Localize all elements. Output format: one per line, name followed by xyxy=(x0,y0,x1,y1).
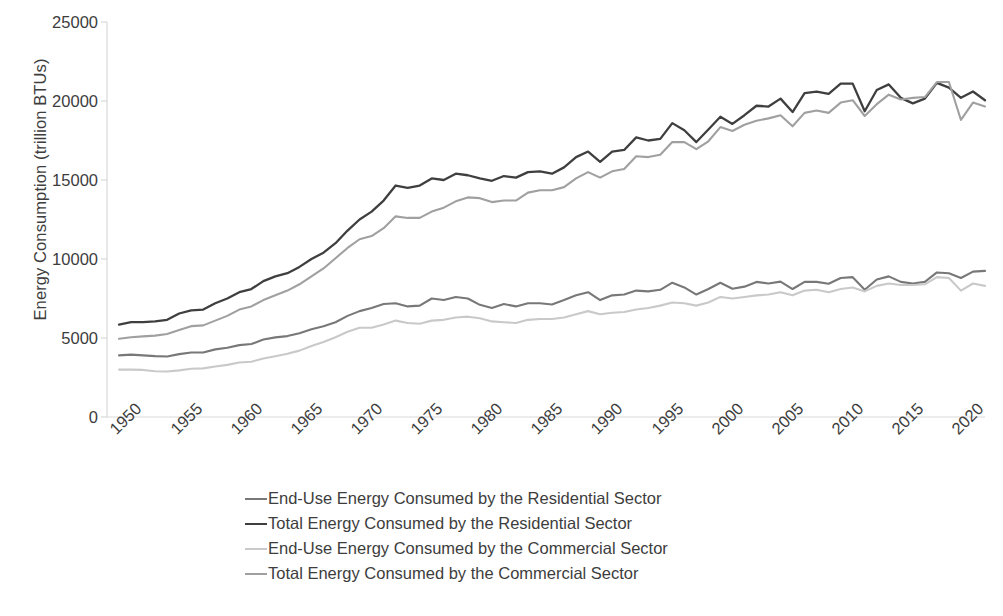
series-line-0 xyxy=(119,271,985,357)
y-tick-label-15000: 15000 xyxy=(36,171,98,190)
y-tick-label-20000: 20000 xyxy=(36,92,98,111)
chart-legend: End-Use Energy Consumed by the Residenti… xyxy=(245,486,805,586)
plot-svg xyxy=(107,22,985,417)
y-tick-label-5000: 5000 xyxy=(36,329,98,348)
legend-item-0[interactable]: End-Use Energy Consumed by the Residenti… xyxy=(245,486,805,511)
legend-item-3[interactable]: Total Energy Consumed by the Commercial … xyxy=(245,561,805,586)
axis-lines xyxy=(107,22,985,417)
legend-swatch-icon xyxy=(245,548,267,550)
legend-swatch-icon xyxy=(245,573,267,575)
legend-label: Total Energy Consumed by the Residential… xyxy=(268,515,632,532)
legend-label: End-Use Energy Consumed by the Residenti… xyxy=(268,490,661,507)
legend-label: End-Use Energy Consumed by the Commercia… xyxy=(268,540,668,557)
series-lines xyxy=(119,82,985,371)
y-tick-label-0: 0 xyxy=(36,408,98,427)
x-axis-tick-labels: 1950195519601965197019751980198519901995… xyxy=(107,417,985,487)
y-tick-label-10000: 10000 xyxy=(36,250,98,269)
legend-swatch-icon xyxy=(245,498,267,500)
y-axis-tick-labels: 0500010000150002000025000 xyxy=(36,0,98,616)
legend-swatch-icon xyxy=(245,523,267,525)
legend-item-1[interactable]: Total Energy Consumed by the Residential… xyxy=(245,511,805,536)
energy-consumption-line-chart: Energy Consumption (trillion BTUs) 05000… xyxy=(0,0,1003,616)
plot-area xyxy=(107,22,985,417)
series-line-3 xyxy=(119,82,985,339)
legend-item-2[interactable]: End-Use Energy Consumed by the Commercia… xyxy=(245,536,805,561)
series-line-2 xyxy=(119,277,985,371)
legend-label: Total Energy Consumed by the Commercial … xyxy=(268,565,639,582)
y-tick-label-25000: 25000 xyxy=(36,13,98,32)
tick-marks xyxy=(101,22,961,423)
